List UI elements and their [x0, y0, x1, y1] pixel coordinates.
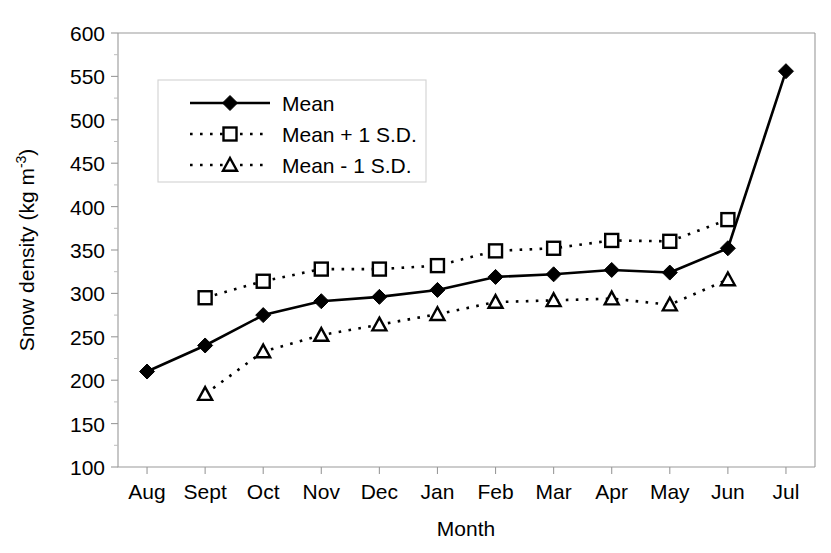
x-axis-title: Month [437, 517, 495, 540]
x-tick-label: Mar [536, 480, 572, 503]
y-tick-label: 400 [70, 196, 105, 219]
y-tick-label: 300 [70, 282, 105, 305]
marker-triangle [489, 295, 503, 308]
marker-square [373, 263, 386, 276]
y-tick-label: 350 [70, 239, 105, 262]
snow-density-chart: 100150200250300350400450500550600 AugSep… [0, 0, 831, 553]
marker-square [663, 235, 676, 248]
x-tick-label: Dec [361, 480, 398, 503]
marker-triangle [198, 387, 212, 400]
y-tick-label: 600 [70, 22, 105, 45]
marker-triangle [721, 273, 735, 286]
x-tick-label: Oct [247, 480, 280, 503]
y-axis-title: Snow density (kg m-3) [13, 149, 38, 352]
marker-diamond [256, 308, 271, 323]
marker-diamond [430, 282, 445, 297]
marker-triangle [256, 345, 270, 358]
x-tick-label: Nov [303, 480, 341, 503]
x-tick-label: Jul [773, 480, 800, 503]
y-axis-title-tail: ) [15, 149, 38, 156]
y-axis-title-base: Snow density (kg m [15, 168, 38, 351]
series-2 [199, 213, 735, 304]
marker-diamond [198, 338, 213, 353]
y-tick-label: 250 [70, 326, 105, 349]
marker-square [199, 291, 212, 304]
series-3 [198, 273, 735, 400]
y-tick-label: 450 [70, 152, 105, 175]
x-tick-label: Apr [595, 480, 628, 503]
series-path [205, 220, 728, 298]
marker-square [315, 263, 328, 276]
legend-label: Mean + 1 S.D. [282, 123, 417, 146]
marker-diamond [604, 262, 619, 277]
marker-square [721, 213, 734, 226]
x-tick-label: Aug [128, 480, 165, 503]
y-tick-label: 100 [70, 456, 105, 479]
marker-diamond [372, 289, 387, 304]
series-path [205, 280, 728, 395]
chart-canvas: 100150200250300350400450500550600 AugSep… [0, 0, 831, 553]
marker-square [257, 275, 270, 288]
marker-square [489, 244, 502, 257]
marker-triangle [547, 293, 561, 306]
marker-triangle [314, 328, 328, 341]
legend-label: Mean - 1 S.D. [282, 154, 412, 177]
marker-diamond [778, 64, 793, 79]
marker-square [431, 259, 444, 272]
y-tick-labels: 100150200250300350400450500550600 [70, 22, 105, 479]
marker-triangle [430, 307, 444, 320]
marker-triangle [372, 318, 386, 331]
marker-triangle [663, 298, 677, 311]
marker-diamond [662, 265, 677, 280]
marker-square [224, 128, 237, 141]
marker-diamond [140, 364, 155, 379]
marker-diamond [488, 269, 503, 284]
x-tick-label: Sept [184, 480, 227, 503]
y-tick-label: 200 [70, 369, 105, 392]
y-tick-label: 150 [70, 413, 105, 436]
x-tick-label: Jun [711, 480, 745, 503]
x-tick-labels: AugSeptOctNovDecJanFebMarAprMayJunJul [128, 480, 799, 503]
marker-square [605, 234, 618, 247]
y-tick-label: 500 [70, 109, 105, 132]
x-tick-label: May [650, 480, 690, 503]
marker-diamond [546, 267, 561, 282]
marker-diamond [720, 241, 735, 256]
x-tick-label: Jan [421, 480, 455, 503]
legend-label: Mean [282, 92, 335, 115]
chart-legend: MeanMean + 1 S.D.Mean - 1 S.D. [158, 80, 426, 182]
marker-square [547, 242, 560, 255]
y-axis-title-exponent: -3 [13, 155, 29, 168]
x-tick-label: Feb [477, 480, 513, 503]
marker-diamond [314, 294, 329, 309]
y-tick-label: 550 [70, 65, 105, 88]
